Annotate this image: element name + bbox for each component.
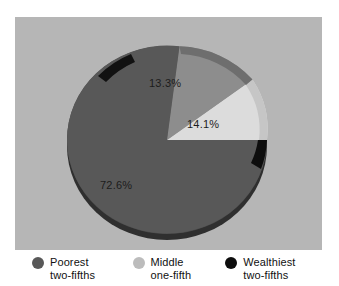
legend-item-poorest[interactable]: Poorest two-fifths	[15, 256, 133, 281]
data-label-middle: 14.1%	[187, 118, 219, 130]
chart-plot-area: 13.3% 14.1% 72.6%	[15, 17, 322, 250]
pie-chart-figure: 13.3% 14.1% 72.6% Poorest two-fifths Mid…	[0, 0, 339, 286]
legend-label-wealthiest-line1: Wealthiest	[243, 256, 295, 269]
legend-item-wealthiest[interactable]: Wealthiest two-fifths	[225, 256, 322, 281]
pie-svg	[15, 17, 322, 250]
legend-swatch-icon-middle	[133, 257, 145, 269]
pie-body	[67, 46, 268, 234]
legend-label-poorest-line1: Poorest	[50, 256, 95, 269]
legend-label-wealthiest: Wealthiest two-fifths	[243, 256, 295, 281]
legend-label-middle-line2: one-fifth	[151, 269, 192, 282]
legend-label-wealthiest-line2: two-fifths	[243, 269, 295, 282]
legend-label-middle-line1: Middle	[151, 256, 192, 269]
legend-label-poorest-line2: two-fifths	[50, 269, 95, 282]
pie-graphic: 13.3% 14.1% 72.6%	[15, 17, 322, 250]
chart-legend: Poorest two-fifths Middle one-fifth Weal…	[15, 256, 322, 286]
legend-swatch-icon-poorest	[32, 257, 44, 269]
legend-label-middle: Middle one-fifth	[151, 256, 192, 281]
legend-label-poorest: Poorest two-fifths	[50, 256, 95, 281]
data-label-poorest: 72.6%	[100, 179, 132, 191]
legend-swatch-icon-wealthiest	[225, 257, 237, 269]
legend-item-middle[interactable]: Middle one-fifth	[133, 256, 226, 281]
data-label-wealthiest: 13.3%	[149, 77, 181, 89]
